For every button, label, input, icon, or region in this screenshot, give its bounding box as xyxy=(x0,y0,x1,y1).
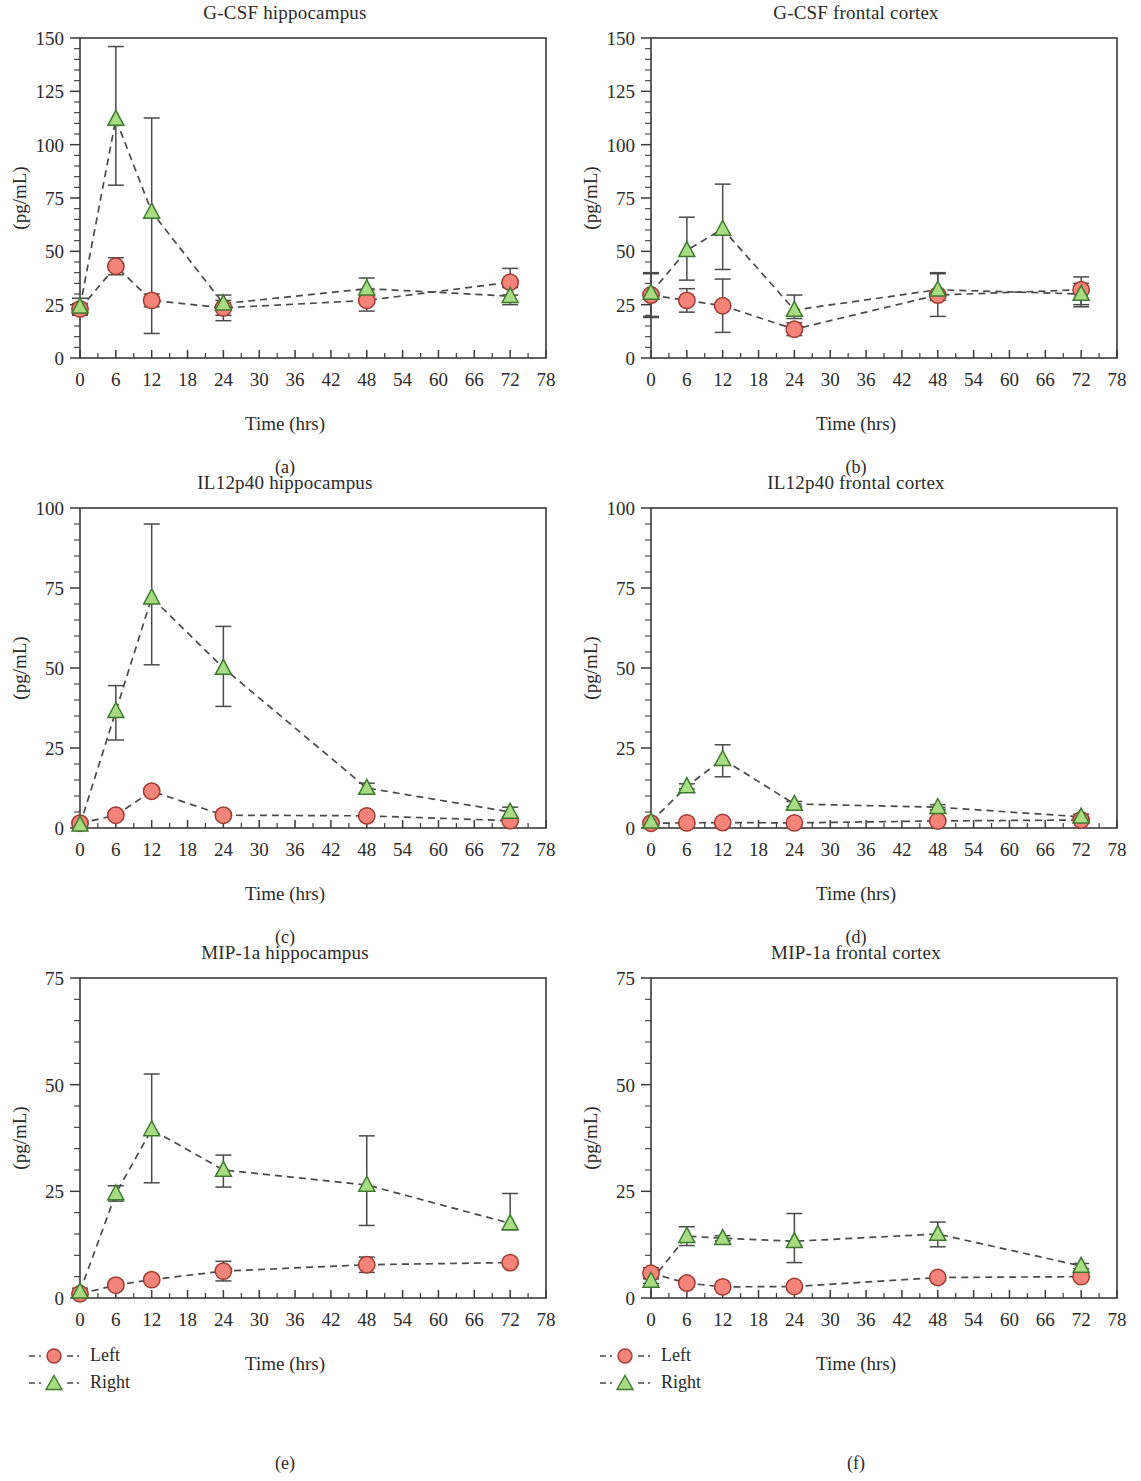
panel-e-letter: (e) xyxy=(0,1453,570,1474)
legend-key-left-icon xyxy=(28,1345,80,1367)
data-marker-left[interactable] xyxy=(930,813,946,829)
x-tick-label: 24 xyxy=(785,839,805,860)
data-marker-left[interactable] xyxy=(786,815,802,831)
x-tick-label: 54 xyxy=(393,839,413,860)
x-tick-label: 0 xyxy=(646,1309,656,1330)
x-tick-label: 60 xyxy=(429,839,448,860)
panel-f-letter: (f) xyxy=(571,1453,1141,1474)
y-tick-label: 75 xyxy=(616,968,635,989)
data-marker-left[interactable] xyxy=(108,1277,124,1293)
data-marker-right[interactable] xyxy=(144,203,160,218)
data-marker-left[interactable] xyxy=(143,1271,159,1287)
data-marker-left[interactable] xyxy=(215,807,231,823)
panel-a-title: G-CSF hippocampus xyxy=(0,0,570,26)
legend-row-right: Right xyxy=(599,1369,701,1396)
y-tick-label: 75 xyxy=(45,968,64,989)
x-tick-label: 18 xyxy=(749,839,768,860)
data-marker-right[interactable] xyxy=(359,280,375,295)
x-tick-label: 48 xyxy=(928,369,947,390)
y-tick-label: 75 xyxy=(45,578,64,599)
plot-frame xyxy=(80,38,546,358)
x-tick-label: 36 xyxy=(286,839,305,860)
data-marker-right[interactable] xyxy=(144,1121,160,1136)
data-marker-right[interactable] xyxy=(715,751,731,766)
panel-a: G-CSF hippocampus 0612182430364248546066… xyxy=(0,0,570,478)
x-tick-label: 24 xyxy=(214,369,234,390)
data-marker-left[interactable] xyxy=(215,1263,231,1279)
data-marker-right[interactable] xyxy=(930,1225,946,1240)
data-marker-left[interactable] xyxy=(714,1279,730,1295)
y-axis-label: (pg/mL) xyxy=(580,166,602,229)
x-tick-label: 78 xyxy=(537,369,556,390)
data-marker-right[interactable] xyxy=(108,1185,124,1200)
y-tick-label: 150 xyxy=(36,28,65,49)
data-marker-left[interactable] xyxy=(143,783,159,799)
x-tick-label: 0 xyxy=(75,839,85,860)
x-tick-label: 78 xyxy=(1108,369,1127,390)
x-tick-label: 18 xyxy=(178,1309,197,1330)
x-tick-label: 72 xyxy=(1072,369,1091,390)
y-tick-label: 0 xyxy=(55,348,65,369)
x-tick-label: 54 xyxy=(393,1309,413,1330)
x-tick-label: 42 xyxy=(892,369,911,390)
x-tick-label: 0 xyxy=(75,369,85,390)
data-marker-left[interactable] xyxy=(108,807,124,823)
x-tick-label: 66 xyxy=(465,369,484,390)
data-marker-left[interactable] xyxy=(714,298,730,314)
x-tick-label: 24 xyxy=(785,1309,805,1330)
x-tick-label: 42 xyxy=(321,1309,340,1330)
data-marker-left[interactable] xyxy=(108,258,124,274)
data-marker-right[interactable] xyxy=(108,703,124,718)
data-marker-left[interactable] xyxy=(679,292,695,308)
data-marker-left[interactable] xyxy=(359,1257,375,1273)
y-tick-label: 150 xyxy=(607,28,636,49)
x-tick-label: 30 xyxy=(821,1309,840,1330)
data-marker-left[interactable] xyxy=(679,815,695,831)
data-marker-right[interactable] xyxy=(930,799,946,814)
data-marker-right[interactable] xyxy=(786,1233,802,1248)
x-tick-label: 72 xyxy=(1072,839,1091,860)
x-tick-label: 54 xyxy=(964,839,984,860)
data-marker-left[interactable] xyxy=(786,321,802,337)
data-marker-left[interactable] xyxy=(502,1254,518,1270)
x-tick-label: 18 xyxy=(749,1309,768,1330)
data-marker-left[interactable] xyxy=(359,808,375,824)
x-tick-label: 42 xyxy=(321,369,340,390)
data-marker-right[interactable] xyxy=(715,1230,731,1245)
legend-row-left: Left xyxy=(28,1342,130,1369)
data-marker-left[interactable] xyxy=(679,1275,695,1291)
x-tick-label: 6 xyxy=(111,1309,121,1330)
data-marker-right[interactable] xyxy=(108,110,124,125)
x-tick-label: 48 xyxy=(357,1309,376,1330)
data-marker-right[interactable] xyxy=(359,779,375,794)
x-tick-label: 78 xyxy=(537,1309,556,1330)
x-tick-label: 60 xyxy=(1000,1309,1019,1330)
y-tick-label: 25 xyxy=(45,738,64,759)
data-marker-left[interactable] xyxy=(930,1269,946,1285)
data-marker-left[interactable] xyxy=(143,292,159,308)
data-marker-left[interactable] xyxy=(786,1278,802,1294)
x-tick-label: 78 xyxy=(1108,1309,1127,1330)
plot-frame xyxy=(651,978,1117,1298)
x-tick-label: 36 xyxy=(286,369,305,390)
data-marker-right[interactable] xyxy=(786,795,802,810)
x-tick-label: 42 xyxy=(321,839,340,860)
legend-row-left: Left xyxy=(599,1342,701,1369)
data-marker-right[interactable] xyxy=(679,1227,695,1242)
data-marker-right[interactable] xyxy=(715,220,731,235)
panel-c-title: IL12p40 hippocampus xyxy=(0,470,570,496)
x-tick-label: 24 xyxy=(214,839,234,860)
data-marker-right[interactable] xyxy=(144,589,160,604)
x-tick-label: 78 xyxy=(1108,839,1127,860)
data-marker-right[interactable] xyxy=(679,242,695,257)
data-marker-right[interactable] xyxy=(502,1215,518,1230)
x-tick-label: 30 xyxy=(821,369,840,390)
data-marker-right[interactable] xyxy=(679,778,695,793)
data-marker-left[interactable] xyxy=(714,814,730,830)
panel-b: G-CSF frontal cortex 0612182430364248546… xyxy=(571,0,1141,478)
data-marker-right[interactable] xyxy=(215,1161,231,1176)
x-tick-label: 72 xyxy=(501,839,520,860)
panel-b-xlabel: Time (hrs) xyxy=(571,413,1141,435)
panel-c-plot: 061218243036424854606672780255075100(pg/… xyxy=(0,496,570,881)
x-tick-label: 18 xyxy=(178,839,197,860)
